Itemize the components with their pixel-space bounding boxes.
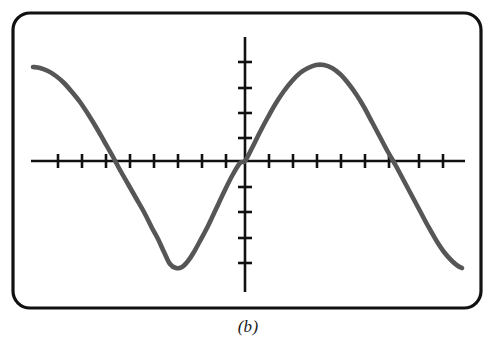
figure-svg-canvas: [0, 0, 496, 347]
figure-container: (b): [0, 0, 496, 347]
figure-caption: (b): [0, 316, 496, 338]
figure-background: [0, 0, 496, 347]
